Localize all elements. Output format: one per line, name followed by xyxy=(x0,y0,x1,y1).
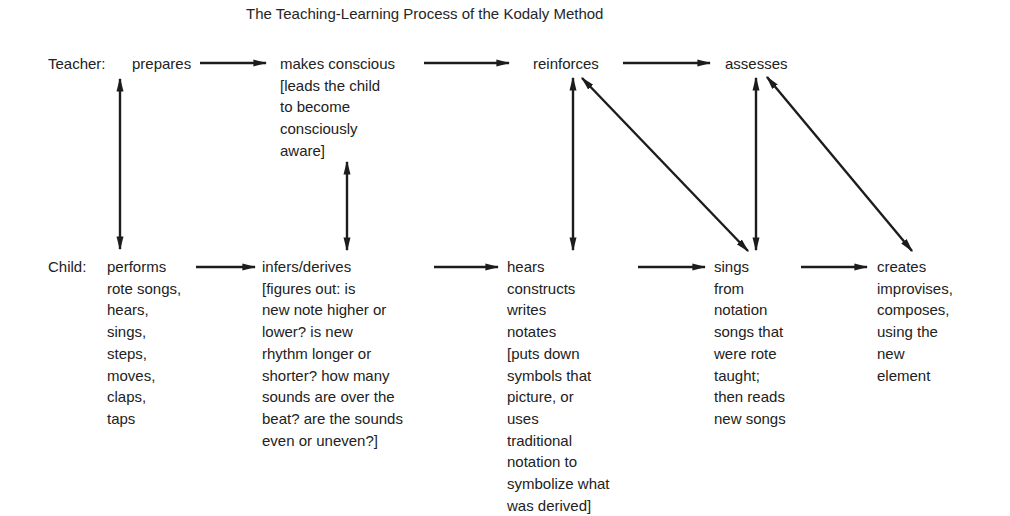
arrow-reinforces-sings-diagonal xyxy=(582,78,748,251)
arrow-assesses-creates-diagonal xyxy=(767,77,912,251)
